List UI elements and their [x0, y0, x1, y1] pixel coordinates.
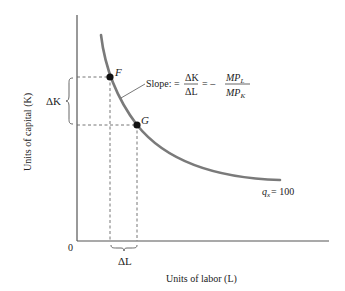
- delta-l-label: ΔL: [118, 255, 132, 267]
- point-g-label: G: [141, 114, 149, 126]
- frac2-numerator: MPL: [225, 72, 244, 85]
- x-axis-label: Units of labor (L): [166, 273, 237, 285]
- frac1-denominator: ΔL: [185, 86, 198, 97]
- y-axis-label: Units of capital (K): [22, 93, 34, 171]
- delta-k-brace: [66, 78, 73, 124]
- isoquant-diagram: F G ΔK ΔL 0 Units of labor (L) Units of …: [0, 0, 345, 291]
- frac2-denominator: MPK: [225, 87, 245, 100]
- point-f-label: F: [114, 66, 122, 78]
- slope-prefix: Slope: =: [146, 78, 180, 89]
- dashed-guides: [77, 77, 137, 241]
- delta-l-brace: [111, 245, 137, 251]
- slope-annotation: Slope: = ΔK ΔL = – MPL MPK: [146, 72, 250, 100]
- point-f: [106, 73, 113, 80]
- slope-leader-line: [121, 84, 145, 98]
- delta-k-label: ΔK: [46, 95, 61, 107]
- point-g: [133, 121, 140, 128]
- isoquant-curve: [101, 35, 280, 180]
- isoquant-label: qx= 100: [262, 186, 294, 199]
- origin-label: 0: [68, 242, 73, 253]
- slope-equals: = –: [202, 78, 216, 89]
- frac1-numerator: ΔK: [185, 72, 199, 83]
